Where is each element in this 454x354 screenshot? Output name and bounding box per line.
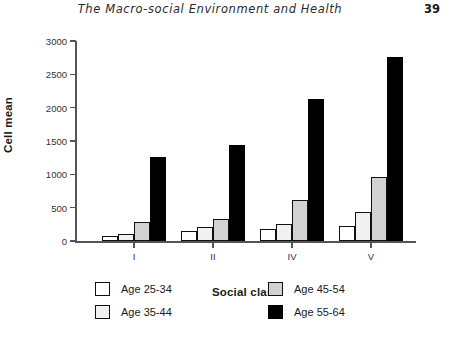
y-axis-tick-label: 2500 — [46, 69, 67, 80]
bar — [102, 236, 118, 241]
bar — [229, 145, 245, 241]
x-axis-tick — [291, 241, 293, 248]
bar — [355, 212, 371, 241]
legend-column-right: Age 45-54Age 55-64 — [268, 277, 345, 323]
bar — [260, 229, 276, 241]
legend-item: Age 55-64 — [268, 300, 345, 323]
y-axis-tick — [70, 207, 76, 209]
legend-label: Age 35-44 — [121, 306, 172, 318]
y-axis-tick — [70, 40, 76, 42]
y-axis-title: Cell mean — [2, 97, 14, 153]
bar — [292, 200, 308, 241]
running-head-title: The Macro-social Environment and Health — [0, 2, 420, 16]
y-axis-tick-label: 500 — [51, 202, 67, 213]
y-axis-tick — [70, 107, 76, 109]
legend-item: Age 35-44 — [95, 300, 172, 323]
legend-swatch — [95, 305, 110, 319]
legend-swatch — [268, 282, 283, 296]
x-axis-tick — [370, 241, 372, 248]
legend-swatch — [268, 305, 283, 319]
y-axis-tick — [70, 140, 76, 142]
bar — [276, 224, 292, 241]
bar-group — [260, 41, 324, 241]
bar — [181, 231, 197, 241]
x-axis-tick-label: II — [210, 251, 215, 262]
y-axis-tick-label: 1500 — [46, 136, 67, 147]
plot-area: 050010001500200025003000IIIIVV — [76, 41, 416, 241]
bar — [387, 57, 403, 241]
running-head: The Macro-social Environment and Health … — [0, 2, 454, 24]
legend-label: Age 55-64 — [294, 306, 345, 318]
page-number: 39 — [424, 2, 440, 16]
bar — [150, 157, 166, 241]
chart-legend: Age 25-34Age 35-44 Age 45-54Age 55-64 — [0, 277, 454, 333]
bar-group — [102, 41, 166, 241]
x-axis-line — [75, 241, 416, 243]
y-axis-tick-label: 0 — [62, 236, 67, 247]
y-axis-tick-label: 1000 — [46, 169, 67, 180]
x-axis-tick-label: V — [368, 251, 374, 262]
y-axis-tick — [70, 74, 76, 76]
bar — [213, 219, 229, 241]
legend-label: Age 45-54 — [294, 283, 345, 295]
legend-swatch — [95, 282, 110, 296]
bar-group — [181, 41, 245, 241]
legend-item: Age 45-54 — [268, 277, 345, 300]
legend-item: Age 25-34 — [95, 277, 172, 300]
bar — [197, 227, 213, 241]
bar — [371, 177, 387, 241]
bar — [118, 234, 134, 241]
y-axis-tick-label: 3000 — [46, 36, 67, 47]
bar — [134, 222, 150, 241]
legend-column-left: Age 25-34Age 35-44 — [95, 277, 172, 323]
bar — [308, 99, 324, 241]
bar-group — [339, 41, 403, 241]
bar — [339, 226, 355, 241]
y-axis-tick — [70, 240, 76, 242]
y-axis-tick — [70, 174, 76, 176]
y-axis-tick-label: 2000 — [46, 102, 67, 113]
x-axis-tick-label: I — [133, 251, 136, 262]
legend-label: Age 25-34 — [121, 283, 172, 295]
x-axis-tick — [133, 241, 135, 248]
x-axis-tick-label: IV — [288, 251, 297, 262]
x-axis-tick — [212, 241, 214, 248]
